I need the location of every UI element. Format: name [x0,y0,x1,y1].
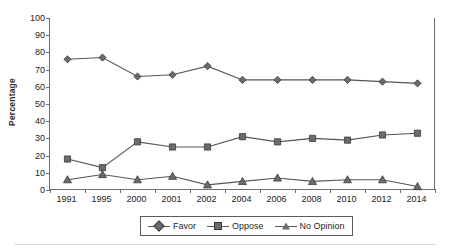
x-tick-mark [295,189,296,193]
x-tick-mark [365,189,366,193]
y-tick-label: 90 [18,31,45,40]
data-point-marker [379,132,385,138]
data-point-marker [239,134,245,140]
y-tick-mark [46,121,50,122]
y-tick-label: 50 [18,100,45,109]
legend-key-marker [282,223,290,230]
x-tick-mark [155,189,156,193]
y-tick-label: 20 [18,151,45,160]
y-tick-label: 40 [18,117,45,126]
data-point-marker [344,76,351,83]
y-axis-title-label: Percentage [7,78,17,126]
y-tick-mark [46,104,50,105]
series-layer [50,18,435,190]
x-tick-label: 2006 [266,194,286,204]
data-point-marker [169,144,175,150]
y-tick-label: 100 [18,14,45,23]
data-point-marker [169,71,176,78]
data-point-marker [64,56,71,63]
legend-entry-label: No Opinion [300,221,345,231]
data-point-marker [309,135,315,141]
data-point-marker [99,54,106,61]
legend-entry: Oppose [207,221,264,231]
y-tick-mark [46,87,50,88]
data-point-marker [344,137,350,143]
data-point-marker [204,63,211,70]
x-tick-label: 2001 [161,194,181,204]
y-tick-mark [46,156,50,157]
x-tick-label: 2004 [231,194,251,204]
data-point-marker [309,76,316,83]
data-point-marker [379,78,386,85]
x-tick-mark [260,189,261,193]
series-no-opinion [64,171,422,190]
data-point-marker [169,172,177,179]
legend-key-marker [214,222,222,230]
x-tick-label: 1995 [91,194,111,204]
page-divider [14,244,436,245]
data-point-marker [64,156,70,162]
series-oppose [64,130,420,171]
legend-entry: No Opinion [275,221,345,231]
x-tick-mark [190,189,191,193]
y-tick-label: 60 [18,82,45,91]
y-tick-mark [46,35,50,36]
data-point-marker [414,80,421,87]
x-tick-label: 2012 [371,194,391,204]
y-tick-label: 0 [18,186,45,195]
data-point-marker [274,76,281,83]
x-tick-label: 2002 [196,194,216,204]
y-tick-label: 70 [18,65,45,74]
triangle-marker-icon [275,221,297,231]
legend-entry-label: Oppose [232,221,264,231]
legend-entry-label: Favor [173,221,196,231]
x-tick-label: 2010 [336,194,356,204]
y-tick-label: 80 [18,48,45,57]
y-tick-mark [46,18,50,19]
y-axis-tick-labels: 0102030405060708090100 [18,12,45,194]
y-tick-mark [46,173,50,174]
x-tick-mark [85,189,86,193]
legend-entry: Favor [148,221,196,231]
y-tick-label: 30 [18,134,45,143]
x-tick-label: 2008 [301,194,321,204]
y-tick-label: 10 [18,168,45,177]
data-point-marker [134,73,141,80]
data-point-marker [204,144,210,150]
data-point-marker [274,139,280,145]
data-point-marker [239,76,246,83]
x-tick-mark [435,189,436,193]
y-tick-mark [46,138,50,139]
chart-legend: FavorOpposeNo Opinion [140,216,353,236]
x-tick-label: 2000 [126,194,146,204]
x-axis-tick-labels: 1991199520002001200220042006200820102012… [49,194,434,208]
x-tick-label: 2014 [406,194,426,204]
x-tick-mark [400,189,401,193]
data-point-marker [274,174,282,181]
data-point-marker [99,171,107,178]
diamond-marker-icon [148,221,170,231]
legend-key-marker [153,220,164,231]
x-tick-mark [225,189,226,193]
y-tick-mark [46,70,50,71]
y-tick-mark [46,52,50,53]
series-favor [64,54,421,87]
x-tick-label: 1991 [56,194,76,204]
square-marker-icon [207,221,229,231]
x-tick-mark [120,189,121,193]
line-chart-figure: Percentage 0102030405060708090100 199119… [0,0,450,249]
plot-area [49,18,434,190]
x-tick-mark [50,189,51,193]
data-point-marker [134,139,140,145]
x-tick-mark [330,189,331,193]
data-point-marker [414,130,420,136]
